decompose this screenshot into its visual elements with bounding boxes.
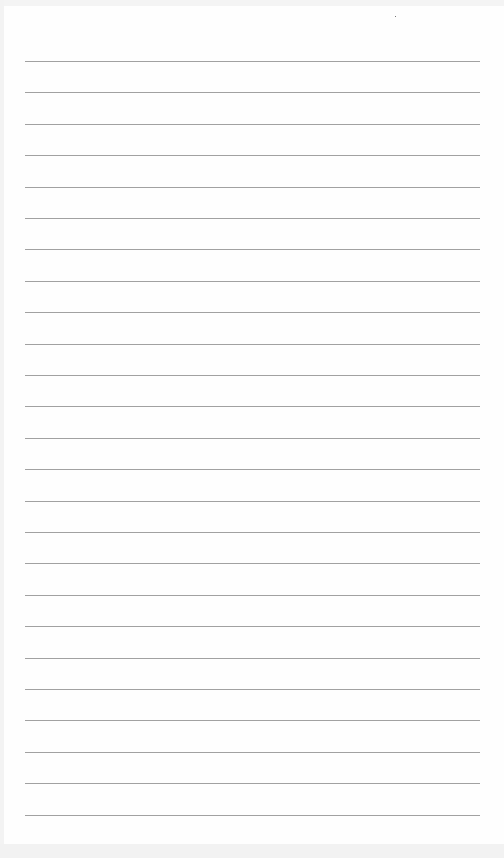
- bottom-edge: [0, 844, 504, 858]
- ruled-line: [25, 532, 480, 533]
- ruled-line: [25, 312, 480, 313]
- ruled-line: [25, 438, 480, 439]
- ruled-line: [25, 658, 480, 659]
- ruled-line: [25, 218, 480, 219]
- ruled-line: [25, 626, 480, 627]
- ruled-line: [25, 752, 480, 753]
- ruled-line: [25, 344, 480, 345]
- ruled-line: [25, 249, 480, 250]
- ruled-line: [25, 92, 480, 93]
- ruled-line: [25, 469, 480, 470]
- top-edge: [0, 0, 504, 6]
- ruled-line: [25, 406, 480, 407]
- ruled-line: [25, 595, 480, 596]
- ruled-line: [25, 815, 480, 816]
- ruled-line: [25, 155, 480, 156]
- ruled-line: [25, 783, 480, 784]
- ruled-line: [25, 375, 480, 376]
- ruled-line: [25, 720, 480, 721]
- lined-paper-sheet: [0, 0, 504, 858]
- ruled-line: [25, 187, 480, 188]
- ruled-line: [25, 563, 480, 564]
- left-edge: [0, 0, 4, 858]
- paper-speck: [395, 16, 396, 17]
- ruled-line: [25, 281, 480, 282]
- ruled-line: [25, 689, 480, 690]
- ruled-line: [25, 61, 480, 62]
- ruled-line: [25, 501, 480, 502]
- ruled-line: [25, 124, 480, 125]
